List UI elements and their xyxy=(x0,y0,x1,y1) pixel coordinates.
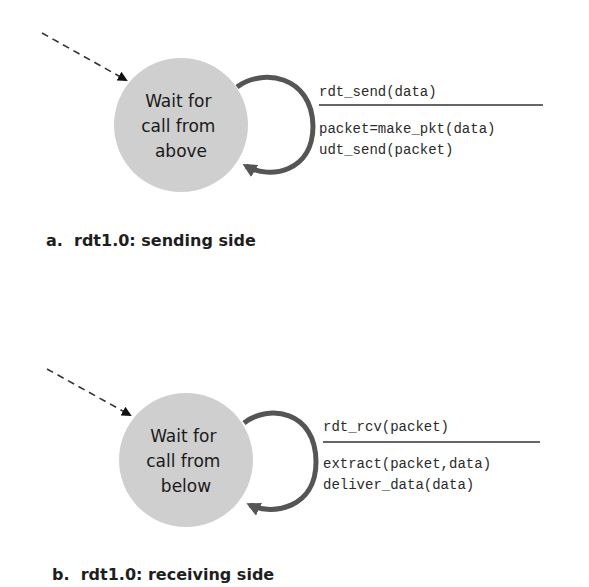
initial-state-arrow xyxy=(47,369,130,415)
transition-action: udt_send(packet) xyxy=(319,142,453,158)
initial-state-arrow xyxy=(42,33,126,80)
self-loop-arrow xyxy=(244,413,316,509)
transition-action: deliver_data(data) xyxy=(323,477,474,493)
fsm-diagram: Wait for call from above rdt_send(data) … xyxy=(0,0,589,587)
transition-action: packet=make_pkt(data) xyxy=(319,121,495,137)
transition-event: rdt_send(data) xyxy=(319,84,437,100)
transition-action: extract(packet,data) xyxy=(323,456,491,472)
caption-sending-side: a. rdt1.0: sending side xyxy=(46,231,256,250)
receiver-fsm: Wait for call from below rdt_rcv(packet)… xyxy=(47,369,540,584)
sender-fsm: Wait for call from above rdt_send(data) … xyxy=(42,33,543,250)
caption-receiving-side: b. rdt1.0: receiving side xyxy=(52,565,274,584)
self-loop-arrow xyxy=(237,77,313,172)
transition-event: rdt_rcv(packet) xyxy=(323,419,449,435)
